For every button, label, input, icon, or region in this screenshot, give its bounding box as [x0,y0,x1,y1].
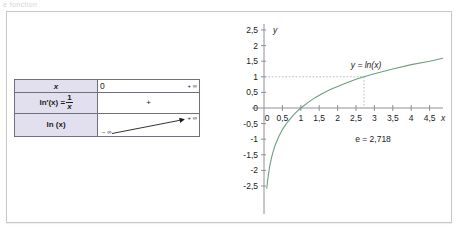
table-row-variation: ln (x) − ∞ + ∞ [15,113,200,136]
y-tick-label: 1 [253,72,258,82]
variation-arrow-graphic [98,114,199,137]
y-tick-label: -2,5 [243,181,258,191]
y-tick-label: 1,5 [246,56,258,66]
ln-curve [267,58,443,189]
y-axis-name: y [272,25,278,35]
variation-end-limit: + ∞ [188,115,197,121]
y-axis-tick-labels: 2,5 2 1,5 1 0,5 0 -0,5 -1 -1,5 -2 -2,5 [243,25,258,191]
cell-function-label: ln (x) [15,113,98,136]
x-tick-label: 0,5 [276,113,288,123]
x-axis-name: x [440,113,446,123]
x-tick-label: 1,5 [313,113,325,123]
x-tick-label: 4 [409,113,414,123]
y-tick-label: 2 [253,41,258,51]
variable-lower-bound: 0 [100,81,105,91]
y-tick-label: -1,5 [243,150,258,160]
y-tick-label: -2 [250,165,258,175]
cell-variable-range: 0 + ∞ [98,80,200,93]
cell-derivative-label: ln′(x) =1x [15,93,98,113]
variation-table: x 0 + ∞ ln′(x) =1x + ln (x) [14,79,200,137]
y-tick-label: -0,5 [243,119,258,129]
table-row-variable: x 0 + ∞ [15,80,200,93]
variation-start-limit: − ∞ [102,129,111,135]
derivative-fraction: 1x [66,94,72,112]
x-tick-label: 1 [298,113,303,123]
x-tick-label: 3,5 [387,113,399,123]
variable-upper-bound: + ∞ [188,83,197,89]
x-tick-label: 0 [265,113,270,123]
clipped-top-text: e fonction [0,0,458,9]
x-tick-label: 4,5 [424,113,436,123]
fraction-denominator: x [66,103,72,112]
x-tick-label: 2 [335,113,340,123]
curve-label: y = ln(x) [350,60,382,70]
table-row-derivative: ln′(x) =1x + [15,93,200,113]
x-tick-label: 2,5 [350,113,362,123]
graph-canvas: 2,5 2 1,5 1 0,5 0 -0,5 -1 -1,5 -2 -2,5 y [215,14,451,220]
figure-panel: x 0 + ∞ ln′(x) =1x + ln (x) [6,11,452,223]
cell-variable-label: x [15,80,98,93]
y-tick-label: 0,5 [246,87,258,97]
derivative-label-prefix: ln′(x) = [39,98,65,107]
ln-function-graph: 2,5 2 1,5 1 0,5 0 -0,5 -1 -1,5 -2 -2,5 y [215,14,451,220]
e-value-annotation: e = 2,718 [355,134,391,144]
y-tick-label: 2,5 [246,25,258,35]
derivative-sign-value: + [98,93,199,112]
x-tick-label: 3 [372,113,377,123]
y-tick-label: -1 [250,134,258,144]
y-tick-label: 0 [253,103,258,113]
cell-derivative-sign: + [98,93,200,113]
cell-variation-arrow: − ∞ + ∞ [98,113,200,136]
